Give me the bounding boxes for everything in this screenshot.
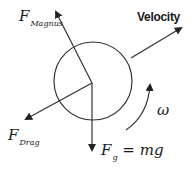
velocity-arrow bbox=[131, 28, 181, 58]
drag-force-label: FDrag bbox=[8, 128, 40, 143]
omega-label: ω bbox=[157, 103, 169, 118]
drag-main: F bbox=[8, 126, 18, 144]
gravity-main: F bbox=[101, 141, 111, 159]
gravity-sub: g bbox=[112, 153, 117, 162]
drag-sub: Drag bbox=[19, 138, 39, 147]
velocity-label: Velocity bbox=[137, 11, 180, 23]
ball-circle bbox=[54, 42, 132, 120]
gravity-force-label: Fg = mg bbox=[101, 143, 163, 158]
drag-force-arrow bbox=[26, 83, 92, 119]
gravity-rest: = mg bbox=[118, 141, 164, 159]
rotation-arrow bbox=[126, 85, 150, 130]
magnus-main: F bbox=[19, 7, 29, 25]
magnus-force-label: FMagnus bbox=[19, 9, 63, 24]
magnus-sub: Magnus bbox=[30, 19, 63, 28]
